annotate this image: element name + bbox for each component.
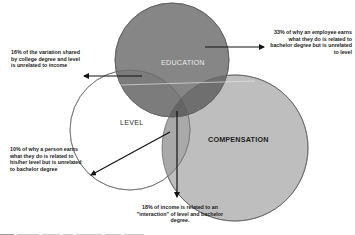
annotation-interaction: 18% of income is related to an "interact… [128,204,232,224]
annotation-line: 16% of the variation shared [11,49,93,56]
annotation-line: bachelor degree but is unrelated [258,42,352,49]
annotation-line: "interaction" of level and bachelor [128,211,232,218]
annotation-education-only: 33% of why an employee earns what they d… [258,29,352,55]
level-label: LEVEL [120,118,143,127]
annotation-line: what they do is related to [258,36,352,43]
annotation-level-only: 10% of why a person earns what they do i… [10,146,90,172]
annotation-line: degree. [128,217,232,224]
annotation-shared-degree-level: 16% of the variation shared by college d… [11,49,93,69]
annotation-line: is unrelated to income [11,62,93,69]
annotation-line: to bachelor degree [10,166,90,173]
compensation-label: COMPENSATION [208,135,269,144]
annotation-line: what they do is related to [10,153,90,160]
annotation-line: to level [258,49,352,56]
annotation-line: 18% of income is related to an [128,204,232,211]
annotation-line: his/her level but is unrelated [10,159,90,166]
education-label: EDUCATION [161,58,205,67]
annotation-line: by college degree and level [11,56,93,63]
annotation-line: 10% of why a person earns [10,146,90,153]
cropped-caption [0,226,170,232]
annotation-line: 33% of why an employee earns [258,29,352,36]
